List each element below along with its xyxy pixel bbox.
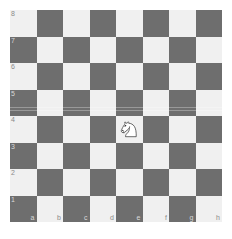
square-b2[interactable] [37, 169, 64, 196]
square-h6[interactable] [196, 63, 223, 90]
square-h8[interactable] [196, 10, 223, 37]
white-knight-icon[interactable] [119, 119, 140, 140]
square-f4[interactable] [143, 116, 170, 143]
square-a1[interactable]: 1a [10, 196, 37, 223]
square-f8[interactable] [143, 10, 170, 37]
rank-label-2: 2 [11, 169, 15, 177]
square-b8[interactable] [37, 10, 64, 37]
square-h1[interactable]: h [196, 196, 223, 223]
square-a8[interactable]: 8 [10, 10, 37, 37]
square-g7[interactable] [169, 37, 196, 64]
square-g4[interactable] [169, 116, 196, 143]
square-e3[interactable] [116, 143, 143, 170]
rank-label-7: 7 [11, 37, 15, 45]
square-e7[interactable] [116, 37, 143, 64]
square-h7[interactable] [196, 37, 223, 64]
square-c7[interactable] [63, 37, 90, 64]
square-e5[interactable] [116, 90, 143, 117]
square-g1[interactable]: g [169, 196, 196, 223]
square-f7[interactable] [143, 37, 170, 64]
square-d8[interactable] [90, 10, 117, 37]
chessboard[interactable]: 87654321abcdefgh [10, 10, 222, 222]
square-b7[interactable] [37, 37, 64, 64]
square-b1[interactable]: b [37, 196, 64, 223]
square-e6[interactable] [116, 63, 143, 90]
rank-label-3: 3 [11, 143, 15, 151]
rank-label-6: 6 [11, 63, 15, 71]
rank-label-1: 1 [11, 196, 15, 204]
chessboard-container: 87654321abcdefgh [10, 10, 222, 222]
square-c8[interactable] [63, 10, 90, 37]
square-a7[interactable]: 7 [10, 37, 37, 64]
square-d3[interactable] [90, 143, 117, 170]
square-e8[interactable] [116, 10, 143, 37]
square-e1[interactable]: e [116, 196, 143, 223]
square-c1[interactable]: c [63, 196, 90, 223]
file-label-c: c [84, 214, 88, 222]
square-b6[interactable] [37, 63, 64, 90]
square-b4[interactable] [37, 116, 64, 143]
square-c6[interactable] [63, 63, 90, 90]
square-f6[interactable] [143, 63, 170, 90]
file-label-e: e [137, 214, 141, 222]
square-f1[interactable]: f [143, 196, 170, 223]
square-a6[interactable]: 6 [10, 63, 37, 90]
square-f5[interactable] [143, 90, 170, 117]
square-b5[interactable] [37, 90, 64, 117]
rank-label-8: 8 [11, 10, 15, 18]
square-a3[interactable]: 3 [10, 143, 37, 170]
square-c4[interactable] [63, 116, 90, 143]
square-c5[interactable] [63, 90, 90, 117]
square-d5[interactable] [90, 90, 117, 117]
file-label-g: g [190, 214, 194, 222]
square-d1[interactable]: d [90, 196, 117, 223]
square-c3[interactable] [63, 143, 90, 170]
file-label-a: a [31, 214, 35, 222]
square-g8[interactable] [169, 10, 196, 37]
square-f3[interactable] [143, 143, 170, 170]
square-g2[interactable] [169, 169, 196, 196]
square-f2[interactable] [143, 169, 170, 196]
square-d6[interactable] [90, 63, 117, 90]
square-h5[interactable] [196, 90, 223, 117]
square-c2[interactable] [63, 169, 90, 196]
square-g3[interactable] [169, 143, 196, 170]
file-label-b: b [57, 214, 61, 222]
square-h3[interactable] [196, 143, 223, 170]
square-h2[interactable] [196, 169, 223, 196]
square-d7[interactable] [90, 37, 117, 64]
square-a2[interactable]: 2 [10, 169, 37, 196]
square-d4[interactable] [90, 116, 117, 143]
file-label-f: f [165, 214, 167, 222]
square-e4[interactable] [116, 116, 143, 143]
square-h4[interactable] [196, 116, 223, 143]
rank-label-5: 5 [11, 90, 15, 98]
square-d2[interactable] [90, 169, 117, 196]
square-b3[interactable] [37, 143, 64, 170]
file-label-h: h [216, 214, 220, 222]
square-g6[interactable] [169, 63, 196, 90]
square-a5[interactable]: 5 [10, 90, 37, 117]
file-label-d: d [110, 214, 114, 222]
rank-label-4: 4 [11, 116, 15, 124]
square-g5[interactable] [169, 90, 196, 117]
square-a4[interactable]: 4 [10, 116, 37, 143]
square-e2[interactable] [116, 169, 143, 196]
